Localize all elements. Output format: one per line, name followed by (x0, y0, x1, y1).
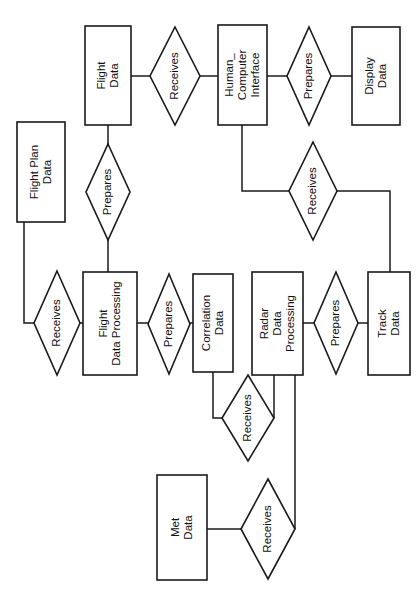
rel-prepares-hci-display[interactable]: Prepares (287, 27, 331, 125)
rel-receives-hci-track-label: Receives (306, 167, 318, 215)
rel-receives-correlation-rdp-label-line: Receives (241, 394, 253, 442)
rel-receives-hci-track-label-line: Receives (306, 167, 318, 215)
rel-prepares-hci-display-label-line: Prepares (302, 52, 314, 99)
rel-receives-flightdata-hci-label: Receives (168, 52, 180, 100)
entity-track-data-label-line: Data (389, 311, 401, 336)
rel-prepares-fdp-correlation-label-line: Prepares (162, 300, 174, 347)
entity-flight-data[interactable]: FlightData (85, 26, 131, 125)
rel-receives-met-rdp-label: Receives (261, 505, 273, 553)
entity-radar-data-processing-label-line: Radar (258, 308, 270, 339)
connector-c-flightplan-receives3 (24, 222, 34, 323)
entity-correlation-data[interactable]: CorrelationData (193, 274, 233, 372)
rel-prepares-flightdata[interactable]: Prepares (86, 144, 130, 240)
rel-receives-flightdata-hci[interactable]: Receives (150, 27, 200, 125)
entity-met-data-label: MetData (169, 515, 194, 540)
entity-radar-data-processing[interactable]: RadarDataProcessing (252, 272, 303, 375)
entity-display-data[interactable]: DisplayData (352, 27, 400, 125)
rel-receives-flightplan-fdp-label: Receives (50, 299, 62, 347)
entity-layer: FlightDataFlight PlanDataHuman_ComputerI… (17, 25, 410, 580)
entity-human-computer-interface-label-line: Computer (236, 50, 248, 101)
entity-correlation-data-label-line: Data (213, 310, 225, 335)
rel-prepares-flightdata-label-line: Prepares (101, 168, 113, 215)
rel-receives-hci-track[interactable]: Receives (289, 142, 337, 240)
er-diagram-svg: ReceivesPreparesPreparesReceivesReceives… (0, 0, 420, 603)
entity-met-data[interactable]: MetData (157, 475, 207, 580)
entity-radar-data-processing-label-line: Data (271, 311, 283, 336)
entity-flight-data-processing[interactable]: FlightData Processing (83, 272, 137, 375)
entity-track-data-label: TrackData (376, 309, 401, 338)
entity-met-data-label-line: Met (169, 517, 181, 537)
entity-flight-plan-data[interactable]: Flight PlanData (17, 122, 65, 222)
entity-met-data-label-line: Data (182, 515, 194, 540)
rel-receives-correlation-rdp-label: Receives (241, 394, 253, 442)
rel-prepares-rdp-track-label-line: Prepares (329, 299, 341, 346)
rel-receives-flightplan-fdp[interactable]: Receives (34, 271, 80, 375)
rel-receives-met-rdp-label-line: Receives (261, 505, 273, 553)
entity-flight-data-label-line: Data (108, 63, 120, 88)
rel-prepares-flightdata-label: Prepares (101, 168, 113, 215)
entity-human-computer-interface-label-line: Human_ (223, 53, 235, 97)
rel-receives-flightplan-fdp-label-line: Receives (50, 299, 62, 347)
entity-flight-plan-data-label-line: Data (41, 159, 53, 184)
entity-flight-data-processing-label-line: Data Processing (110, 281, 122, 365)
connector-c-hci-receives2 (242, 125, 289, 191)
rel-receives-flightdata-hci-label-line: Receives (168, 52, 180, 100)
rel-prepares-fdp-correlation-label: Prepares (162, 300, 174, 347)
entity-human-computer-interface[interactable]: Human_ComputerInterface (218, 25, 267, 125)
entity-track-data[interactable]: TrackData (368, 272, 410, 375)
rel-receives-met-rdp[interactable]: Receives (241, 479, 295, 579)
entity-flight-data-processing-label-line: Flight (97, 309, 109, 338)
entity-human-computer-interface-label-line: Interface (249, 53, 261, 98)
entity-display-data-label-line: Data (376, 63, 388, 88)
rel-prepares-fdp-correlation[interactable]: Prepares (148, 274, 190, 374)
entity-track-data-label-line: Track (376, 309, 388, 338)
entity-correlation-data-label-line: Correlation (200, 295, 212, 351)
rel-prepares-rdp-track[interactable]: Prepares (314, 272, 358, 374)
connector-c-correlation-receives4 (213, 372, 222, 418)
entity-radar-data-processing-label-line: Processing (284, 295, 296, 352)
rel-prepares-rdp-track-label: Prepares (329, 299, 341, 346)
entity-human-computer-interface-label: Human_ComputerInterface (223, 50, 261, 101)
entity-flight-data-label: FlightData (95, 61, 120, 90)
entity-display-data-label-line: Display (363, 57, 375, 95)
entity-flight-plan-data-label-line: Flight Plan (28, 145, 40, 199)
entity-flight-data-label-line: Flight (95, 61, 107, 90)
connector-c-receives2-track (337, 191, 390, 272)
rel-receives-correlation-rdp[interactable]: Receives (222, 375, 274, 461)
er-diagram-canvas: ReceivesPreparesPreparesReceivesReceives… (0, 0, 420, 603)
rel-prepares-hci-display-label: Prepares (302, 52, 314, 99)
